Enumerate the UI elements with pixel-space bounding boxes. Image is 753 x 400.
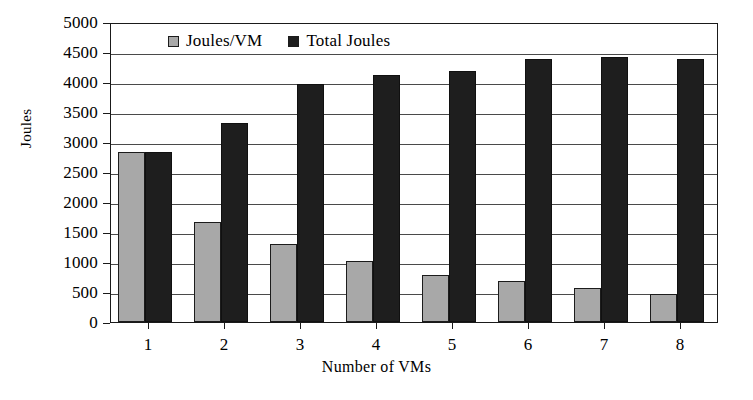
bar-total-joules-5: [449, 71, 476, 322]
y-tick-mark: [103, 143, 110, 144]
x-tick-label: 7: [566, 335, 642, 355]
bar-total-joules-7: [601, 57, 628, 322]
y-tick-label: 2500: [63, 162, 98, 183]
x-tick-mark: [528, 323, 529, 329]
y-axis-tick: 3000: [0, 143, 110, 144]
y-tick-label: 2000: [63, 192, 98, 213]
y-tick-label: 3000: [63, 132, 98, 153]
y-tick-label: 500: [72, 282, 98, 303]
y-axis-tick: 4500: [0, 53, 110, 54]
bar-total-joules-6: [525, 59, 552, 322]
chart-legend: Joules/VMTotal Joules: [168, 31, 390, 51]
bar-joules-vm-5: [422, 275, 449, 322]
y-tick-label: 4500: [63, 42, 98, 63]
y-tick-label: 1500: [63, 222, 98, 243]
y-axis-tick: 1500: [0, 233, 110, 234]
y-tick-mark: [103, 83, 110, 84]
y-tick-mark: [103, 113, 110, 114]
bar-joules-vm-4: [346, 261, 373, 322]
legend-label: Total Joules: [306, 31, 390, 51]
bar-joules-vm-8: [650, 294, 677, 322]
legend-item-joules-vm: Joules/VM: [168, 31, 262, 51]
y-tick-mark: [103, 173, 110, 174]
y-axis-tick: 2000: [0, 203, 110, 204]
x-tick-label: 6: [490, 335, 566, 355]
y-tick-label: 0: [89, 312, 98, 333]
y-tick-mark: [103, 263, 110, 264]
x-tick-mark: [680, 323, 681, 329]
x-tick-label: 3: [262, 335, 338, 355]
y-tick-label: 4000: [63, 72, 98, 93]
legend-item-total-joules: Total Joules: [288, 31, 390, 51]
y-tick-mark: [103, 53, 110, 54]
bar-total-joules-1: [145, 152, 172, 322]
bar-chart-figure: 0500100015002000250030003500400045005000…: [0, 0, 753, 400]
y-axis-tick: 4000: [0, 83, 110, 84]
x-tick-label: 4: [338, 335, 414, 355]
x-tick-mark: [300, 323, 301, 329]
y-tick-label: 1000: [63, 252, 98, 273]
y-axis: 0500100015002000250030003500400045005000: [0, 0, 110, 346]
bar-joules-vm-1: [118, 152, 145, 322]
y-tick-mark: [103, 323, 110, 324]
x-tick-mark: [452, 323, 453, 329]
y-axis-tick: 0: [0, 323, 110, 324]
legend-label: Joules/VM: [186, 31, 262, 51]
y-tick-mark: [103, 293, 110, 294]
y-axis-tick: 500: [0, 293, 110, 294]
legend-swatch-icon: [168, 36, 179, 47]
legend-swatch-icon: [288, 36, 299, 47]
x-tick-mark: [224, 323, 225, 329]
y-tick-mark: [103, 203, 110, 204]
x-tick-label: 8: [642, 335, 718, 355]
y-tick-mark: [103, 23, 110, 24]
bar-total-joules-3: [297, 84, 324, 322]
x-tick-mark: [604, 323, 605, 329]
y-axis-tick: 5000: [0, 23, 110, 24]
bar-total-joules-8: [677, 59, 704, 322]
y-tick-label: 5000: [63, 12, 98, 33]
bar-joules-vm-6: [498, 281, 525, 322]
gridline: [111, 54, 717, 55]
bar-joules-vm-3: [270, 244, 297, 322]
y-tick-mark: [103, 233, 110, 234]
bar-joules-vm-2: [194, 222, 221, 322]
bar-total-joules-2: [221, 123, 248, 322]
x-tick-label: 1: [110, 335, 186, 355]
x-tick-mark: [148, 323, 149, 329]
bar-total-joules-4: [373, 75, 400, 322]
plot-area: [110, 23, 718, 323]
x-tick-mark: [376, 323, 377, 329]
x-tick-label: 2: [186, 335, 262, 355]
y-axis-tick: 1000: [0, 263, 110, 264]
y-axis-tick: 3500: [0, 113, 110, 114]
x-tick-label: 5: [414, 335, 490, 355]
x-axis-title: Number of VMs: [0, 358, 753, 376]
y-tick-label: 3500: [63, 102, 98, 123]
y-axis-title: Joules: [18, 109, 35, 148]
y-axis-tick: 2500: [0, 173, 110, 174]
bar-joules-vm-7: [574, 288, 601, 322]
